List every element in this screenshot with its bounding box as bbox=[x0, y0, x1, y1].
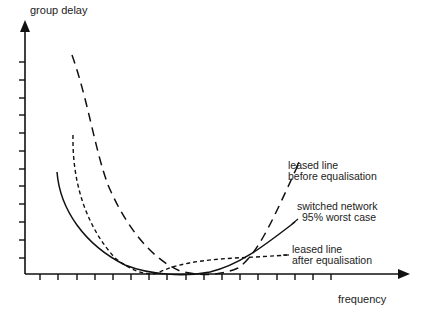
label-after-equalisation: leased line after equalisation bbox=[292, 244, 372, 266]
label-switched-line2: 95% worst case bbox=[297, 212, 378, 223]
y-axis-label: group delay bbox=[30, 5, 88, 16]
curve-switched-network bbox=[57, 172, 295, 275]
x-axis-arrow-icon bbox=[398, 269, 410, 279]
x-axis-label: frequency bbox=[338, 294, 386, 305]
y-axis-arrow-icon bbox=[20, 20, 30, 32]
axes bbox=[25, 30, 400, 274]
y-ticks bbox=[19, 62, 25, 258]
label-after-line2: after equalisation bbox=[292, 255, 372, 266]
label-before-line2: before equalisation bbox=[288, 171, 377, 182]
curve-leased-before-equalisation bbox=[72, 55, 298, 274]
group-delay-chart bbox=[0, 0, 424, 316]
label-switched-network: switched network 95% worst case bbox=[297, 201, 378, 223]
label-before-equalisation: leased line before equalisation bbox=[288, 160, 377, 182]
